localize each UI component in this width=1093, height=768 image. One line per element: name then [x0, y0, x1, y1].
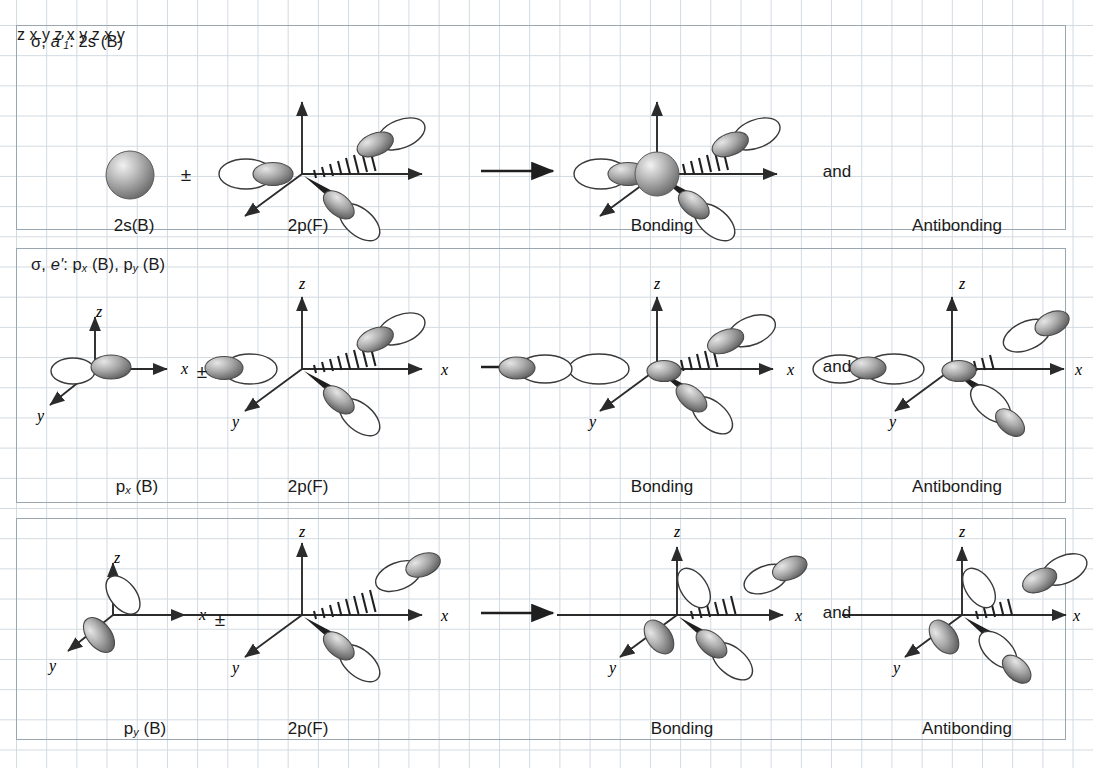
row-3-axis-x-mid: x	[440, 607, 448, 624]
row-2-caption-bonding: Bonding	[631, 477, 693, 497]
row-2-axis-z-bond: z	[653, 275, 661, 292]
row-3-axis-y-anti: y	[891, 659, 901, 677]
row-2-axis-y-anti: y	[887, 413, 897, 431]
row-3-caption-antibonding: Antibonding	[922, 719, 1012, 739]
row-3-axis-z-bond: z	[673, 523, 681, 540]
row-3-bonding-diagram	[557, 547, 812, 687]
row-2-diagram: z x y z x	[17, 249, 1067, 504]
row-3-axis-z-mid: z	[298, 523, 306, 540]
row-2-axis-x-px: x	[180, 360, 188, 377]
row-1-plus-minus: ±	[181, 165, 191, 184]
row-3-py-axes	[68, 563, 185, 658]
row-3-axis-z-py: z	[113, 549, 121, 566]
row-1-diagram	[17, 26, 1067, 231]
row-1-caption-2s: 2s(B)	[114, 216, 155, 236]
row-2-axis-x-bond: x	[786, 361, 794, 378]
row-1-and-label: and	[823, 162, 851, 182]
row-3-antibonding-diagram	[842, 547, 1092, 690]
row-2-plus-minus: ±	[197, 362, 207, 381]
row-3-axis-y-py: y	[47, 657, 57, 675]
row-1-caption-antibonding: Antibonding	[912, 216, 1002, 236]
row-3-caption-2p: 2p(F)	[288, 719, 329, 739]
row-3-axis-y-mid: y	[230, 659, 240, 677]
panel-row-3: z x y z x y	[16, 518, 1066, 740]
row-2-axis-y-mid: y	[230, 413, 240, 431]
row-3-and-label: and	[823, 603, 851, 623]
row-2-bonding-diagram	[499, 297, 780, 441]
panel-row-2: σ, e': px (B), py (B) z x y	[16, 248, 1066, 503]
row-1-2s-sphere	[106, 151, 154, 199]
row-1-caption-2p: 2p(F)	[288, 216, 329, 236]
row-3-axis-x-bond: x	[794, 607, 802, 624]
row-2-antibonding-diagram	[813, 297, 1075, 443]
row-3-plus-minus-glyph: ±	[215, 610, 225, 629]
row-2-axis-y-px: y	[35, 407, 45, 425]
row-1-plus-minus-glyph: ±	[181, 165, 191, 184]
row-2-axis-z-mid: z	[298, 275, 306, 292]
row-3-axis-z-anti: z	[958, 523, 966, 540]
row-3-axis-y-bond: y	[607, 659, 617, 677]
row-2-px-axes	[50, 317, 167, 405]
row-2-axis-z-anti: z	[958, 275, 966, 292]
row-2-plus-minus-glyph: ±	[197, 362, 207, 381]
row-2-caption-2p: 2p(F)	[288, 477, 329, 497]
row-3-caption-py: py (B)	[124, 719, 166, 739]
row-2-caption-antibonding: Antibonding	[912, 477, 1002, 497]
row-2-axis-x-mid: x	[440, 361, 448, 378]
row-1-caption-bonding: Bonding	[631, 216, 693, 236]
row-2-axis-z-px: z	[95, 303, 103, 320]
row-3-diagram: z x y z x y	[17, 519, 1067, 741]
row-3-axis-x-anti: x	[1072, 607, 1080, 624]
row-2-axis-y-bond: y	[587, 413, 597, 431]
row-2-caption-px: px (B)	[116, 477, 158, 497]
row-3-plus-minus: ±	[215, 610, 225, 629]
row-3-caption-bonding: Bonding	[651, 719, 713, 739]
row-2-and-label: and	[823, 357, 851, 377]
panel-row-1: σ, a'1: 2s (B)	[16, 25, 1066, 230]
row-2-axis-x-anti: x	[1074, 361, 1082, 378]
